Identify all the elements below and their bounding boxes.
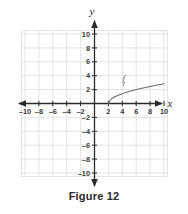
x-tick-label: –4 [63,107,72,116]
y-tick-label: 2 [86,85,90,94]
y-tick-label: 6 [86,57,90,66]
y-tick-label: –6 [82,141,90,150]
y-axis-label: y [89,5,95,17]
x-tick-label: 6 [134,107,138,116]
x-tick-label: 2 [106,107,110,116]
figure-container: –10–8–6–4–2246810108642–2–4–6–8–10 x y f… [0,0,188,214]
coordinate-plane-graph: –10–8–6–4–2246810108642–2–4–6–8–10 x y f [0,0,188,214]
x-tick-label: –6 [49,107,57,116]
y-tick-label: –8 [82,155,90,164]
figure-caption: Figure 12 [0,190,188,202]
x-tick-label: –8 [35,107,43,116]
x-axis-label: x [167,97,173,109]
y-tick-label: –2 [82,113,90,122]
y-tick-label: 8 [86,44,90,53]
y-tick-label: –10 [78,169,90,178]
x-tick-label: 8 [148,107,152,116]
y-tick-label: 10 [82,30,90,39]
y-tick-label: –4 [82,127,91,136]
x-tick-label: –10 [19,107,31,116]
